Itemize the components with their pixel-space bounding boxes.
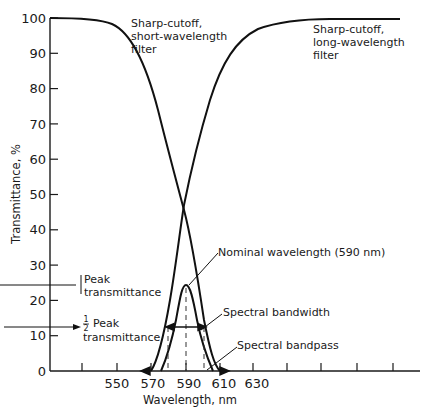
y-tick-20: 20 <box>29 293 46 308</box>
short-filter-label-2: short-wavelength <box>131 30 227 43</box>
bandwidth-label: Spectral bandwidth <box>223 306 330 319</box>
half-num: 1 <box>83 315 88 324</box>
y-ticks <box>50 18 58 336</box>
short-filter-label-3: filter <box>131 43 157 56</box>
y-tick-labels: 100 90 80 70 60 50 40 30 20 10 0 <box>21 11 46 379</box>
short-wavelength-filter-curve <box>50 18 220 371</box>
half-peak-annotation: 1 2 Peak transmittance <box>4 315 160 344</box>
half-peak-label-2: transmittance <box>83 331 160 344</box>
x-tick-labels: 550 570 590 610 630 <box>105 376 270 391</box>
y-tick-30: 30 <box>29 258 46 273</box>
x-tick-550: 550 <box>105 376 130 391</box>
y-tick-0: 0 <box>38 364 46 379</box>
long-filter-label-2: long-wavelength <box>313 36 405 49</box>
transmittance-chart: 100 90 80 70 60 50 40 30 20 10 0 550 570… <box>0 0 426 410</box>
short-filter-label-1: Sharp-cutoff, <box>131 17 202 30</box>
x-tick-570: 570 <box>141 376 166 391</box>
bandpass-label: Spectral bandpass <box>237 339 339 352</box>
peak-label-1: Peak <box>84 273 111 286</box>
y-tick-90: 90 <box>29 46 46 61</box>
y-tick-50: 50 <box>29 187 46 202</box>
peak-label-2: transmittance <box>84 286 161 299</box>
nominal-label: Nominal wavelength (590 nm) <box>218 246 385 259</box>
y-tick-80: 80 <box>29 81 46 96</box>
y-tick-100: 100 <box>21 11 46 26</box>
long-filter-label-3: filter <box>313 49 339 62</box>
x-axis-title: Wavelength, nm <box>143 393 237 407</box>
curve-annotations: Nominal wavelength (590 nm) Spectral ban… <box>218 246 385 352</box>
y-tick-40: 40 <box>29 222 46 237</box>
peak-annotation: Peak transmittance <box>0 273 161 299</box>
half-peak-label-1: Peak <box>93 317 120 330</box>
y-tick-60: 60 <box>29 152 46 167</box>
x-tick-630: 630 <box>245 376 270 391</box>
y-tick-70: 70 <box>29 117 46 132</box>
y-tick-10: 10 <box>29 328 46 343</box>
x-ticks <box>82 363 393 371</box>
long-filter-label-1: Sharp-cutoff, <box>313 23 384 36</box>
x-tick-590: 590 <box>177 376 202 391</box>
y-axis-title: Transmittance, % <box>9 144 23 245</box>
filter-labels: Sharp-cutoff, short-wavelength filter Sh… <box>131 17 405 62</box>
x-tick-610: 610 <box>212 376 237 391</box>
